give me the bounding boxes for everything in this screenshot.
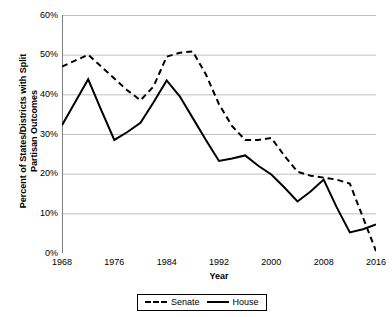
x-tick-label-2008: 2008 [304, 257, 344, 267]
x-axis-title: Year [62, 271, 376, 281]
legend-label-senate: Senate [171, 297, 200, 307]
chart-plot-svg [62, 15, 376, 253]
x-tick-label-1992: 1992 [199, 257, 239, 267]
chart-legend: Senate House [137, 294, 267, 311]
y-tick-label-30: 30% [26, 130, 58, 139]
y-tick-label-10: 10% [26, 209, 58, 218]
legend-swatch-solid-icon [207, 301, 229, 303]
x-tick-label-2016: 2016 [356, 257, 392, 267]
y-tick-label-20: 20% [26, 169, 58, 178]
y-tick-label-40: 40% [26, 90, 58, 99]
chart-container: Percent of States/Districts with Split P… [0, 0, 392, 317]
x-tick-label-1984: 1984 [147, 257, 187, 267]
legend-entry-house: House [207, 297, 259, 307]
x-tick-label-1976: 1976 [94, 257, 134, 267]
series-line-senate [62, 51, 376, 251]
x-tick-label-2000: 2000 [251, 257, 291, 267]
plot-area [62, 15, 376, 253]
y-tick-label-50: 50% [26, 50, 58, 59]
legend-entry-senate: Senate [145, 297, 200, 307]
legend-swatch-dashed-icon [145, 301, 167, 303]
y-tick-label-60: 60% [26, 11, 58, 20]
x-tick-label-1968: 1968 [42, 257, 82, 267]
legend-label-house: House [233, 297, 259, 307]
